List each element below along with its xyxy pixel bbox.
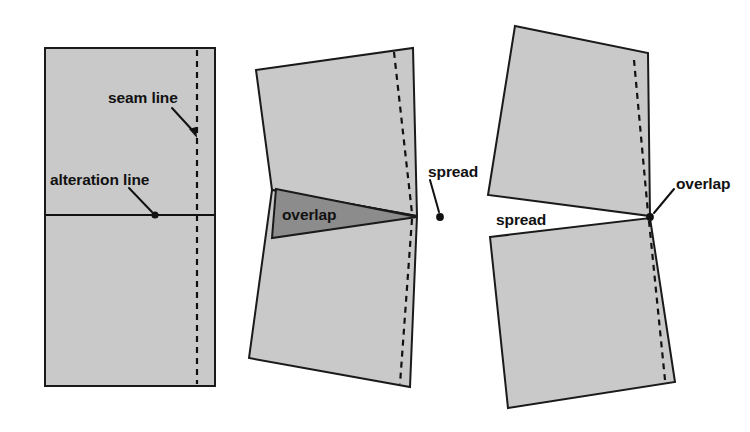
seam-line-label: seam line (108, 89, 178, 106)
overlap-label-middle: overlap (282, 206, 336, 223)
alteration-line-label: alteration line (50, 171, 150, 188)
figure-spread-pattern: spread overlap (488, 26, 730, 408)
spread-label-right: spread (496, 211, 546, 228)
overlap-leader-spread-figure (654, 189, 674, 213)
overlap-pivot-dot-spread-figure (646, 213, 654, 221)
spread-pivot-dot-overlap-figure (436, 213, 444, 221)
overlap-label-right: overlap (676, 175, 730, 192)
figure-overlapped-pattern: overlap spread (249, 48, 478, 387)
diagram-canvas: seam line alteration line overlap spread (0, 0, 750, 432)
spread-leader-overlap-figure (430, 180, 439, 212)
spread-label-middle: spread (428, 163, 478, 180)
figure-undisturbed-pattern: seam line alteration line (45, 48, 215, 386)
diagram-svg: seam line alteration line overlap spread (0, 0, 750, 432)
pattern-piece-lower-spread (490, 218, 675, 408)
alteration-line-dot (151, 211, 158, 218)
pattern-piece-upper-spread (488, 26, 650, 216)
